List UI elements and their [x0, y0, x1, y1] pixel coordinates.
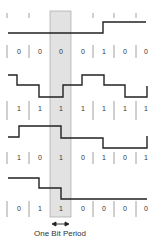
bit-label: 1	[123, 105, 127, 112]
bit-label: 1	[102, 48, 106, 55]
bit-period-caption: One Bit Period	[34, 229, 86, 238]
bit-label: 0	[123, 205, 127, 212]
bit-label: 0	[102, 205, 106, 212]
one-bit-period-highlight	[50, 11, 71, 217]
bit-labels-row-2: 1 1 1 1 1 1 1	[7, 101, 148, 120]
bit-label: 0	[38, 48, 42, 55]
bit-labels-row-3: 1 0 1 0 1 0 1	[7, 152, 148, 164]
bit-label: 0	[144, 48, 148, 55]
bit-label: 1	[59, 105, 63, 112]
bit-label: 0	[59, 48, 63, 55]
bit-label: 0	[123, 154, 127, 161]
bit-label: 0	[81, 205, 85, 212]
waveform-row-1	[8, 22, 146, 33]
waveform-row-3	[8, 126, 147, 148]
bit-label: 0	[81, 48, 85, 55]
bit-label: 1	[144, 105, 148, 112]
bit-label: 1	[38, 205, 42, 212]
bit-label: 1	[144, 154, 148, 161]
double-arrow-icon	[52, 222, 69, 226]
bit-label: 0	[144, 205, 148, 212]
bit-labels-row-4: 0 1 1 0 0 0 0	[7, 201, 148, 217]
bit-label: 1	[102, 105, 106, 112]
bit-label: 1	[81, 105, 85, 112]
bit-label: 0	[17, 205, 21, 212]
waveform-row-2	[8, 75, 147, 97]
bit-label: 0	[123, 48, 127, 55]
bit-label: 0	[81, 154, 85, 161]
bit-label: 1	[17, 105, 21, 112]
bit-label: 1	[59, 205, 63, 212]
bit-label: 1	[102, 154, 106, 161]
bit-label: 0	[17, 48, 21, 55]
bit-label: 1	[38, 105, 42, 112]
bit-label: 1	[17, 154, 21, 161]
signal-encoding-diagram: 0 0 0 0 1 0 0 1 1 1 1 1 1 1	[0, 0, 158, 246]
bit-label: 1	[59, 154, 63, 161]
bit-label: 0	[38, 154, 42, 161]
waveform-row-4	[8, 178, 147, 199]
bit-labels-row-1: 0 0 0 0 1 0 0	[7, 45, 148, 58]
top-tick-marks	[7, 13, 136, 18]
